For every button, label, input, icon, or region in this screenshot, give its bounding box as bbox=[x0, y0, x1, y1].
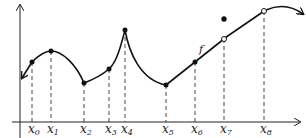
label-x4: x4 bbox=[121, 122, 133, 137]
point-x1 bbox=[49, 49, 54, 54]
point-x8-open bbox=[262, 9, 267, 14]
function-curve-end bbox=[266, 7, 303, 14]
function-line-upper bbox=[226, 13, 263, 38]
point-x4 bbox=[123, 28, 128, 33]
label-x0: x0 bbox=[28, 122, 40, 137]
function-curve-left bbox=[32, 51, 84, 83]
function-diagram: f x0 x1 x2 x3 x4 x5 x6 x7 x8 bbox=[0, 0, 306, 138]
label-x3: x3 bbox=[105, 122, 117, 137]
label-x6: x6 bbox=[191, 122, 203, 137]
point-x2 bbox=[82, 81, 87, 86]
point-x0 bbox=[30, 60, 35, 65]
point-x7-open bbox=[222, 37, 227, 42]
point-x7-value bbox=[221, 16, 226, 21]
label-x1: x1 bbox=[47, 122, 59, 137]
label-x2: x2 bbox=[80, 122, 92, 137]
point-x3 bbox=[107, 67, 112, 72]
dashed-guides bbox=[32, 11, 264, 122]
point-x5 bbox=[164, 83, 169, 88]
label-x8: x8 bbox=[260, 122, 272, 137]
point-x6 bbox=[193, 60, 198, 65]
label-x7: x7 bbox=[220, 122, 233, 137]
label-x5: x5 bbox=[162, 122, 174, 137]
function-curve-start bbox=[22, 62, 32, 78]
x-labels: x0 x1 x2 x3 x4 x5 x6 x7 x8 bbox=[28, 122, 272, 137]
